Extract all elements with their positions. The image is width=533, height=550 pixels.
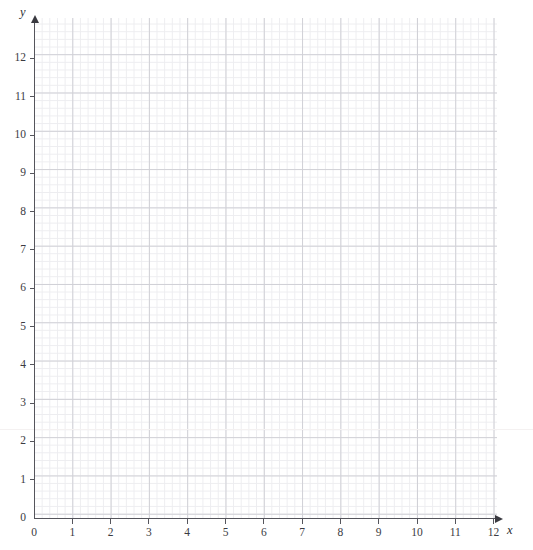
y-axis-tick-label: 3 (0, 397, 26, 409)
y-axis-tick (30, 173, 35, 174)
y-axis-tick-label: 2 (0, 436, 26, 448)
x-axis-tick (455, 519, 456, 524)
y-axis-tick-label: 10 (0, 129, 26, 141)
y-axis-tick-label: 1 (0, 474, 26, 486)
x-axis-line (34, 518, 495, 519)
x-axis-tick-label: 5 (223, 527, 229, 539)
y-axis-tick (30, 403, 35, 404)
graph-paper-canvas: x y 01234567891011120123456789101112 (0, 0, 533, 550)
y-axis-tick-label: 4 (0, 359, 26, 371)
coordinate-grid (34, 18, 497, 518)
x-axis-tick-label: 1 (69, 527, 75, 539)
y-axis-tick (30, 96, 35, 97)
x-axis-tick-label: 10 (411, 527, 423, 539)
y-axis-tick (30, 326, 35, 327)
y-axis-tick-label: 8 (0, 206, 26, 218)
x-axis-tick (340, 519, 341, 524)
y-axis-tick-label: 0 (0, 512, 26, 524)
y-axis-tick-label: 9 (0, 168, 26, 180)
x-axis-tick (225, 519, 226, 524)
y-axis-tick (30, 211, 35, 212)
y-axis-tick (30, 249, 35, 250)
y-axis-tick (30, 364, 35, 365)
y-axis-tick-label: 5 (0, 321, 26, 333)
x-axis-arrowhead (495, 515, 503, 523)
x-axis-tick (110, 519, 111, 524)
y-axis-tick-label: 11 (0, 91, 26, 103)
x-axis-tick (148, 519, 149, 524)
x-axis-tick (302, 519, 303, 524)
scan-artifact (0, 429, 533, 430)
y-axis-arrowhead (31, 15, 39, 23)
x-axis-tick-label: 2 (108, 527, 114, 539)
x-axis-tick (187, 519, 188, 524)
x-axis-tick-label: 9 (376, 527, 382, 539)
x-axis-tick (72, 519, 73, 524)
x-axis-tick-label: 12 (488, 527, 500, 539)
y-axis-tick (30, 441, 35, 442)
y-axis-label: y (20, 6, 26, 19)
y-axis-tick-label: 6 (0, 282, 26, 294)
y-axis-tick (30, 58, 35, 59)
x-axis-tick-label: 7 (299, 527, 305, 539)
y-axis-tick-label: 7 (0, 244, 26, 256)
x-axis-tick-label: 6 (261, 527, 267, 539)
x-axis-tick-label: 0 (31, 527, 37, 539)
x-axis-tick-label: 8 (338, 527, 344, 539)
x-axis-tick (417, 519, 418, 524)
y-axis-tick-label: 12 (0, 53, 26, 65)
x-axis-label: x (507, 524, 513, 537)
x-axis-tick-label: 11 (450, 527, 461, 539)
x-axis-tick-label: 4 (184, 527, 190, 539)
x-axis-tick (263, 519, 264, 524)
x-axis-tick (493, 519, 494, 524)
x-axis-tick-label: 3 (146, 527, 152, 539)
y-axis-tick (30, 135, 35, 136)
y-axis-tick (30, 288, 35, 289)
y-axis-tick (30, 479, 35, 480)
x-axis-tick (378, 519, 379, 524)
